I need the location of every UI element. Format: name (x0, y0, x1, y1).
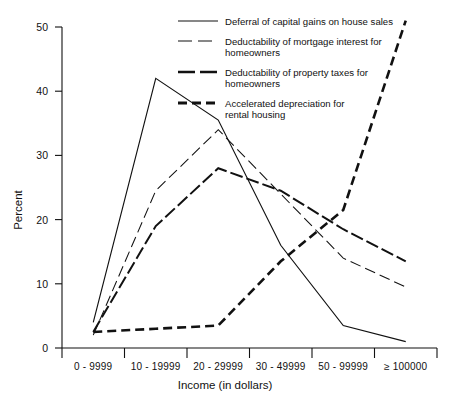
legend-label-property-taxes-line2: homeowners (225, 78, 280, 89)
chart-figure: 50 40 30 20 10 0 0 - 9999 10 - 19999 (0, 0, 453, 401)
y-tick-label-30: 30 (36, 149, 48, 161)
x-tick-labels: 0 - 9999 10 - 19999 20 - 29999 30 - 4999… (74, 361, 427, 372)
legend-label-accelerated-depreciation-line2: rental housing (225, 109, 285, 120)
x-tick-label-0: 0 - 9999 (74, 361, 113, 372)
x-tick-label-5: ≥ 100000 (384, 361, 427, 372)
y-tick-label-10: 10 (36, 278, 48, 290)
x-ticks (62, 348, 437, 358)
y-tick-label-0: 0 (42, 342, 48, 354)
legend-label-accelerated-depreciation-line1: Accelerated depreciation for (225, 98, 345, 109)
y-tick-labels: 50 40 30 20 10 0 (36, 21, 48, 354)
x-axis-title: Income (in dollars) (178, 379, 273, 391)
x-tick-label-1: 10 - 19999 (131, 361, 181, 372)
y-tick-label-50: 50 (36, 21, 48, 33)
legend-label-property-taxes-line1: Deductability of property taxes for (225, 67, 369, 78)
x-tick-label-3: 30 - 49999 (256, 361, 306, 372)
legend-label-deferral-capital-gains-line1: Deferral of capital gains on house sales (225, 16, 393, 27)
line-chart-svg: 50 40 30 20 10 0 0 - 9999 10 - 19999 (0, 0, 453, 401)
legend-label-mortgage-interest-line2: homeowners (225, 47, 280, 58)
y-axis-title: Percent (12, 189, 24, 229)
y-tick-label-20: 20 (36, 214, 48, 226)
series-line-property-taxes (93, 168, 406, 332)
y-tick-label-40: 40 (36, 85, 48, 97)
x-tick-label-4: 50 - 99999 (318, 361, 368, 372)
legend: Deferral of capital gains on house sales… (178, 16, 393, 121)
series-line-mortgage-interest (93, 130, 406, 335)
y-ticks (55, 27, 62, 348)
x-tick-label-2: 20 - 29999 (193, 361, 243, 372)
legend-label-mortgage-interest-line1: Deductability of mortgage interest for (225, 36, 383, 47)
